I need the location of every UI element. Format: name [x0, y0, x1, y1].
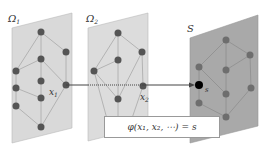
node — [115, 57, 122, 64]
node — [223, 37, 230, 44]
node — [13, 68, 20, 75]
node — [196, 100, 203, 107]
label-s-point: s — [205, 86, 209, 94]
node — [196, 64, 203, 71]
node-s-target — [195, 81, 203, 89]
node — [13, 85, 20, 92]
node — [223, 67, 230, 74]
node — [223, 91, 230, 98]
node — [247, 52, 254, 59]
node — [63, 49, 70, 56]
label-omega1: Ω1 — [7, 13, 20, 25]
node — [91, 68, 98, 75]
node — [38, 124, 45, 131]
panel-omega1: Ω1 x1 — [7, 13, 72, 143]
label-s-plane: S — [187, 23, 194, 34]
node — [115, 96, 122, 103]
node — [223, 114, 230, 121]
formula-text: φ(x₁, x₂, ⋯) = s — [127, 122, 196, 132]
node — [248, 85, 255, 92]
node — [38, 29, 45, 36]
node — [38, 78, 45, 85]
label-omega2: Ω2 — [85, 13, 98, 25]
formula-box: φ(x₁, x₂, ⋯) = s — [104, 116, 220, 138]
node — [38, 95, 45, 102]
node — [139, 49, 146, 56]
node — [38, 56, 45, 63]
node — [115, 30, 122, 37]
node-x2 — [140, 83, 147, 90]
node — [13, 103, 20, 110]
